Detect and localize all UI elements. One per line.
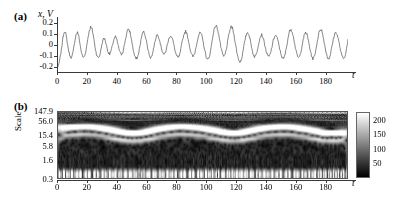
- colorbar-tick: 200: [373, 115, 386, 125]
- panel-a-ytick: 0.1: [19, 28, 53, 38]
- panel-b-x-axis: [57, 180, 356, 181]
- panel-b-xtick: 0: [45, 182, 69, 192]
- panel-a-xtick: 100: [194, 76, 218, 86]
- figure-container: (a) x, V t 0.20.10-0.1-0.2 0204060801001…: [0, 0, 398, 201]
- panel-a-xtick: 120: [224, 76, 248, 86]
- panel-a-xtick: 40: [105, 76, 129, 86]
- panel-b-xtick: 20: [75, 182, 99, 192]
- panel-a-xtick: 80: [164, 76, 188, 86]
- panel-a-xtick: 20: [75, 76, 99, 86]
- colorbar-gradient: [356, 112, 370, 178]
- colorbar-tick: 50: [373, 158, 382, 168]
- panel-b-plot-area: [57, 111, 348, 179]
- panel-b-xtick: 40: [105, 182, 129, 192]
- panel-a-xtick: 160: [284, 76, 308, 86]
- panel-a-ytick: -0.2: [19, 61, 53, 71]
- panel-b-xtick: 140: [254, 182, 278, 192]
- panel-a-ytick: 0: [19, 39, 53, 49]
- panel-b-ytick: 15.4: [17, 130, 53, 140]
- panel-b-xtick: 180: [314, 182, 338, 192]
- colorbar-tick: 150: [373, 129, 386, 139]
- colorbar-tick: 100: [373, 144, 386, 154]
- panel-a-xtick: 60: [135, 76, 159, 86]
- panel-b-ytick: 147.9: [17, 106, 53, 116]
- wavelet-scalogram: [58, 112, 347, 178]
- panel-a-y-axis: [57, 17, 58, 72]
- timeseries-line: [57, 17, 348, 72]
- panel-b-ytick: 1.6: [17, 155, 53, 165]
- panel-a-x-axis: [57, 72, 356, 73]
- panel-a-ytick: 0.2: [19, 17, 53, 27]
- panel-b-xtick: 160: [284, 182, 308, 192]
- panel-b-ytick: 56.0: [17, 116, 53, 126]
- panel-a-xtick: 180: [314, 76, 338, 86]
- panel-b-ytick: 5.8: [17, 141, 53, 151]
- panel-b-xtick: 120: [224, 182, 248, 192]
- panel-b-xtick: 80: [164, 182, 188, 192]
- panel-a-xtick: 140: [254, 76, 278, 86]
- panel-b-xtick: 100: [194, 182, 218, 192]
- panel-a-plot-area: [57, 17, 348, 72]
- panel-a-xtick: 0: [45, 76, 69, 86]
- panel-a-ytick: -0.1: [19, 50, 53, 60]
- panel-b-xtick: 60: [135, 182, 159, 192]
